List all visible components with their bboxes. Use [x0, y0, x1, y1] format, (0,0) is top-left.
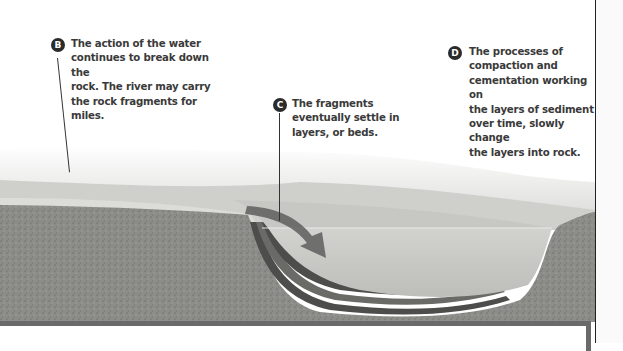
- callout-c-badge: C: [273, 98, 287, 112]
- callout-d-text: The processes of compaction and cementat…: [469, 45, 594, 160]
- callout-b-badge: B: [51, 38, 65, 52]
- callout-c-text: The fragments eventually settle in layer…: [292, 97, 402, 140]
- caption-box-frame: [0, 321, 591, 351]
- callout-c-line: layers, or beds.: [292, 126, 402, 140]
- callout-b-line: The action of the water: [71, 37, 221, 51]
- callout-d-line: The processes of: [469, 45, 594, 59]
- callout-b-text: The action of the water continues to bre…: [71, 37, 221, 123]
- callout-d-line: the layers into rock.: [469, 146, 594, 160]
- callout-d-line: the layers of sediment: [469, 103, 594, 117]
- callout-d-line: over time, slowly change: [469, 117, 594, 146]
- callout-c-line: eventually settle in: [292, 111, 402, 125]
- callout-c-line: The fragments: [292, 97, 402, 111]
- callout-c-leader: [279, 113, 280, 221]
- callout-b-line: the rock fragments for miles.: [71, 95, 221, 124]
- callout-d-line: compaction and: [469, 59, 594, 73]
- callout-d-badge: D: [448, 46, 462, 60]
- callout-b-line: continues to break down the: [71, 51, 221, 80]
- callout-d-line: cementation working on: [469, 74, 594, 103]
- callout-b-line: rock. The river may carry: [71, 80, 221, 94]
